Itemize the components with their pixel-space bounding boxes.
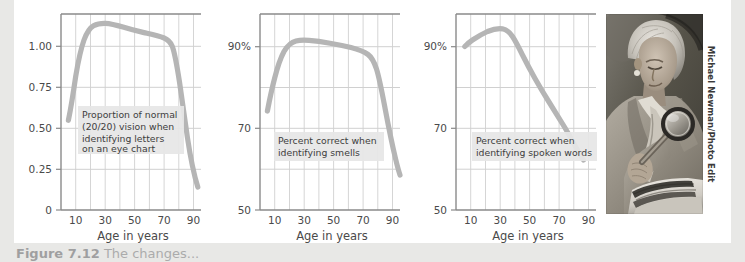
- x-tick-label: 10: [268, 214, 281, 226]
- x-axis-title: Age in years: [296, 229, 368, 243]
- photo-credit-text: Michael Newman/Photo Edit: [706, 46, 716, 183]
- photo-credit: Michael Newman/Photo Edit: [703, 14, 719, 214]
- y-tick-label: 0: [45, 204, 52, 216]
- caption-strip: Figure 7.12 The changes...: [0, 243, 745, 262]
- chart-panel-smell: 90% 70 50 Percent correct when identifyi…: [214, 0, 410, 243]
- charts-row: 1.00 0.75 0.50 0.25 0 Proportion of norm…: [14, 0, 731, 243]
- x-tick-label: 30: [298, 214, 311, 226]
- y-tick-label: 90%: [228, 40, 251, 52]
- hearing-chart-svg: 90% 70 50 Percent correct when identifyi…: [410, 0, 606, 243]
- elderly-woman-reading-with-magnifier-photo: [606, 14, 703, 214]
- page-gutter-left: [0, 0, 14, 243]
- figure-root: 1.00 0.75 0.50 0.25 0 Proportion of norm…: [0, 0, 745, 262]
- annotation-line: Proportion of normal: [82, 109, 177, 120]
- figure-caption: Figure 7.12 The changes...: [16, 246, 199, 261]
- page-gutter-right: [731, 0, 745, 243]
- annotation-line: identifying smells: [278, 147, 360, 158]
- y-tick-label: 0.25: [29, 163, 52, 175]
- x-tick-label: 90: [582, 214, 595, 226]
- x-tick-label: 50: [128, 214, 141, 226]
- x-tick-label: 30: [494, 214, 507, 226]
- annotation-line: on an eye chart: [82, 143, 155, 154]
- y-tick-marks: [451, 47, 456, 210]
- y-tick-label: 90%: [424, 40, 447, 52]
- y-tick-label: 1.00: [29, 40, 52, 52]
- x-tick-label: 50: [327, 214, 340, 226]
- y-tick-label: 70: [238, 122, 251, 134]
- y-tick-label: 0.50: [29, 122, 52, 134]
- annotation-line: Percent correct when: [278, 135, 377, 146]
- plot-area-background: [456, 14, 596, 210]
- photo-frame: [606, 14, 703, 214]
- x-tick-label: 50: [523, 214, 536, 226]
- chart-panel-vision: 1.00 0.75 0.50 0.25 0 Proportion of norm…: [14, 0, 214, 243]
- x-tick-label: 10: [464, 214, 477, 226]
- y-tick-label: 50: [238, 204, 251, 216]
- x-tick-label: 30: [99, 214, 112, 226]
- vision-chart-svg: 1.00 0.75 0.50 0.25 0 Proportion of norm…: [14, 0, 214, 243]
- y-tick-marks: [56, 46, 61, 210]
- x-tick-label: 90: [187, 214, 200, 226]
- figure-caption-label: Figure 7.12: [16, 246, 100, 261]
- x-axis-title: Age in years: [492, 229, 564, 243]
- y-tick-marks: [255, 47, 260, 210]
- chart-panel-hearing: 90% 70 50 Percent correct when identifyi…: [410, 0, 606, 243]
- x-axis-title: Age in years: [97, 229, 169, 243]
- y-tick-label: 50: [434, 204, 447, 216]
- y-tick-label: 0.75: [29, 81, 52, 93]
- annotation-line: (20/20) vision when: [82, 121, 174, 132]
- y-tick-label: 70: [434, 122, 447, 134]
- figure-card: 1.00 0.75 0.50 0.25 0 Proportion of norm…: [14, 0, 731, 243]
- x-tick-label: 90: [386, 214, 399, 226]
- x-tick-label: 70: [552, 214, 565, 226]
- annotation-line: identifying spoken words: [476, 147, 592, 158]
- figure-caption-body: The changes...: [104, 246, 199, 261]
- smell-chart-svg: 90% 70 50 Percent correct when identifyi…: [214, 0, 410, 243]
- x-tick-label: 70: [157, 214, 170, 226]
- annotation-line: Percent correct when: [476, 135, 575, 146]
- x-tick-label: 10: [69, 214, 82, 226]
- x-tick-label: 70: [356, 214, 369, 226]
- photo-block: Michael Newman/Photo Edit: [606, 14, 716, 214]
